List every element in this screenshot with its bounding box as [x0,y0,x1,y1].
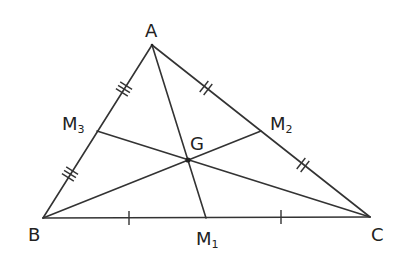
label-m2: M2 [270,115,293,135]
label-a: A [145,22,157,40]
vertex-a-point [151,44,154,47]
label-g: G [190,135,204,153]
median-a-m1 [152,45,206,218]
label-m1: M1 [196,230,219,250]
triangle-diagram: A B C G M1 M2 M3 [0,0,406,264]
diagram-canvas [0,0,406,264]
label-b: B [28,226,40,244]
median-b-m2 [43,131,261,218]
label-m3: M3 [62,115,85,135]
label-c: C [371,226,384,244]
median-c-m3 [97,131,370,217]
centroid-point [185,157,190,162]
